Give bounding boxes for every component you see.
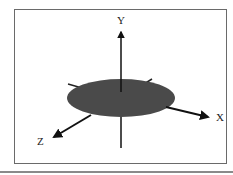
x-axis-arrow [166, 107, 208, 117]
axes-diagram [0, 0, 233, 175]
z-axis-label: Z [37, 136, 44, 147]
y-axis-label: Y [117, 15, 125, 26]
z-axis-arrow [54, 115, 91, 137]
x-axis-label: X [216, 112, 224, 123]
